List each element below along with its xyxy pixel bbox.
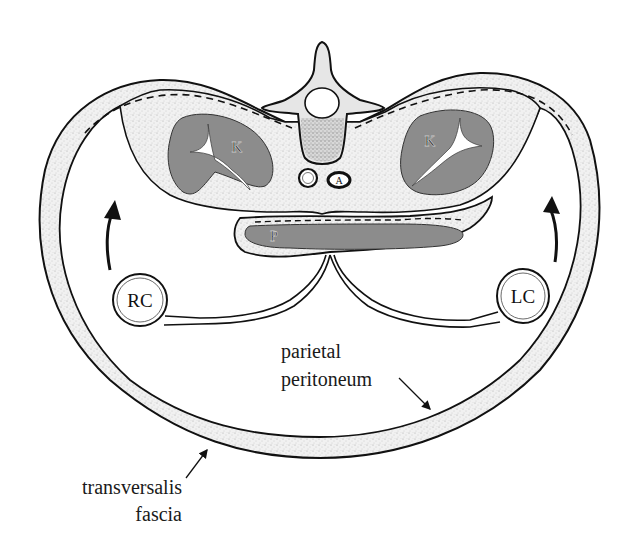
anatomy-diagram: A K K P RC LC [0,0,631,555]
inferior-vena-cava [299,169,317,187]
left-colon: LC [497,269,549,323]
right-colon-label: RC [127,290,152,311]
transversalis-fascia-annotation: transversalis fascia [82,450,207,525]
transversalis-label: transversalis [82,476,182,498]
aorta-label: A [335,175,343,186]
peritoneum-label: peritoneum [281,368,373,391]
parietal-label: parietal [281,340,341,363]
left-colon-label: LC [511,286,535,307]
left-kidney-label: K [232,139,243,155]
transversalis-fascia-arrow [186,450,207,478]
right-kidney-label: K [425,133,436,149]
right-colon: RC [113,274,167,326]
fascia-label: fascia [135,503,182,525]
vertebral-canal [305,88,339,118]
pancreas-label: P [270,229,278,244]
